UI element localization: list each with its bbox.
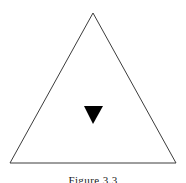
figure-caption: Figure 3.3 (0, 174, 186, 183)
figure-background (0, 0, 186, 183)
figure-drawing-area (0, 0, 186, 183)
figure-container: Figure 3.3 (0, 0, 186, 183)
